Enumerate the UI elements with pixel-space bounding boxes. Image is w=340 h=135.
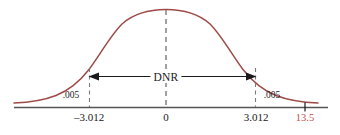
- left-tail-probability-label: .005: [63, 90, 80, 100]
- x-tick-label-left-critical: –3.012: [74, 111, 104, 123]
- x-tick-label-center: 0: [163, 111, 169, 123]
- right-tail-probability-label: .005: [264, 90, 281, 100]
- test-statistic-label: 13.5: [296, 112, 314, 123]
- dnr-label: DNR: [150, 71, 181, 83]
- normal-distribution-figure: DNR .005 .005 –3.012 0 3.012 13.5: [0, 0, 340, 135]
- x-tick-label-right-critical: 3.012: [244, 111, 269, 123]
- distribution-plot-svg: [0, 0, 340, 135]
- dnr-arrowhead-left: [89, 73, 100, 81]
